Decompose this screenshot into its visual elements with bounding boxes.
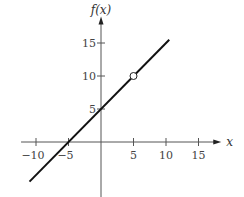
chart: −10−55101551015 x f(x) (0, 0, 244, 197)
x-tick-label: 10 (159, 149, 173, 162)
y-axis-label: f(x) (90, 3, 112, 17)
x-axis-label: x (226, 135, 233, 149)
x-tick-label: 5 (130, 149, 137, 162)
x-tick-label: 15 (192, 149, 206, 162)
x-axis-arrow (213, 140, 221, 145)
x-tick-label: −10 (21, 149, 44, 162)
ticks: −10−55101551015 (21, 37, 205, 162)
y-tick-label: 10 (82, 70, 96, 83)
axes (21, 17, 221, 197)
series-line (30, 40, 170, 182)
open-circle-marker (130, 73, 137, 80)
y-tick-label: 15 (82, 37, 96, 50)
series (30, 40, 170, 182)
y-axis-arrow (99, 17, 104, 25)
marks (130, 73, 137, 80)
